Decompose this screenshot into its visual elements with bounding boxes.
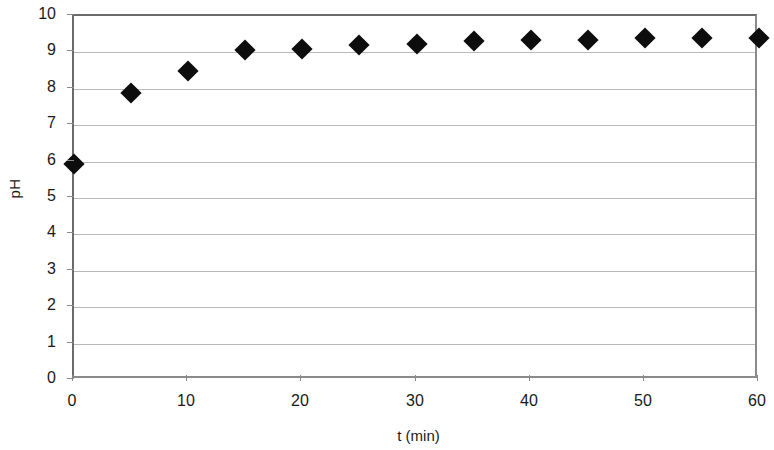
data-point-marker	[178, 60, 199, 81]
x-axis-tick	[415, 375, 416, 381]
y-axis-tick-label: 10	[26, 6, 56, 22]
data-point-marker	[235, 39, 256, 60]
data-point-marker	[120, 82, 141, 103]
x-axis-tick	[300, 375, 301, 381]
x-axis-tick-label: 30	[395, 393, 435, 409]
gridline	[74, 307, 755, 308]
gridline	[74, 125, 755, 126]
y-axis-tick-label: 6	[26, 152, 56, 168]
y-axis-tick-label: 2	[26, 297, 56, 313]
y-axis-tick-label: 1	[26, 334, 56, 350]
gridline	[74, 162, 755, 163]
y-axis-tick	[67, 305, 74, 306]
data-point-marker	[691, 27, 712, 48]
y-axis-tick-label: 3	[26, 261, 56, 277]
y-axis-tick	[67, 160, 74, 161]
x-axis-tick-label: 50	[623, 393, 663, 409]
data-point-marker	[634, 27, 655, 48]
x-axis-tick	[757, 375, 758, 381]
gridline	[74, 234, 755, 235]
y-axis-tick	[67, 342, 74, 343]
y-axis-tick-label: 7	[26, 115, 56, 131]
y-axis-tick-label: 8	[26, 79, 56, 95]
x-axis-tick-label: 60	[737, 393, 774, 409]
y-axis-tick	[67, 269, 74, 270]
x-axis-tick-label: 10	[166, 393, 206, 409]
x-axis-tick-label: 20	[280, 393, 320, 409]
y-axis-tick-label: 9	[26, 42, 56, 58]
x-axis-tick	[529, 375, 530, 381]
y-axis-tick	[67, 14, 74, 15]
gridline	[74, 344, 755, 345]
data-point-marker	[748, 27, 769, 48]
plot-area	[72, 14, 757, 378]
data-point-marker	[292, 38, 313, 59]
x-axis-tick	[72, 375, 73, 381]
y-axis-tick-label: 4	[26, 224, 56, 240]
gridline	[74, 89, 755, 90]
y-axis-tick	[67, 196, 74, 197]
data-point-marker	[63, 154, 84, 175]
y-axis-tick	[67, 232, 74, 233]
y-axis-tick	[67, 87, 74, 88]
y-axis-title: pH	[7, 159, 22, 219]
y-axis-tick	[67, 50, 74, 51]
data-point-marker	[577, 29, 598, 50]
data-point-marker	[520, 29, 541, 50]
gridline	[74, 198, 755, 199]
x-axis-tick	[186, 375, 187, 381]
x-axis-tick-label: 40	[509, 393, 549, 409]
x-axis-tick	[643, 375, 644, 381]
x-axis-tick-label: 0	[52, 393, 92, 409]
gridline	[74, 271, 755, 272]
x-axis-title: t (min)	[0, 428, 769, 443]
y-axis-tick-label: 0	[26, 370, 56, 386]
y-axis-tick	[67, 123, 74, 124]
data-point-marker	[463, 31, 484, 52]
y-axis-tick-label: 5	[26, 188, 56, 204]
